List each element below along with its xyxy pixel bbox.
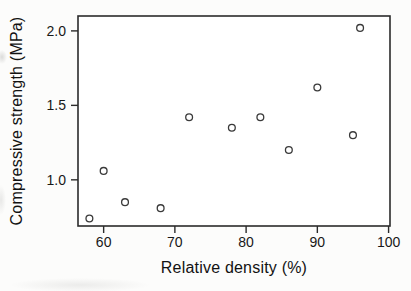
y-tick-label: 2.0 — [47, 23, 67, 39]
x-tick-label: 80 — [238, 234, 254, 250]
x-tick-label: 70 — [167, 234, 183, 250]
x-tick-label: 90 — [310, 234, 326, 250]
chart-canvas: 607080901001.01.52.0 — [0, 0, 411, 291]
scatter-figure: 607080901001.01.52.0 Relative density (%… — [0, 0, 411, 291]
plot-box — [78, 16, 390, 226]
y-tick-label: 1.0 — [47, 172, 67, 188]
x-axis-title: Relative density (%) — [161, 259, 307, 277]
y-axis-title: Compressive strength (MPa) — [8, 17, 26, 226]
x-tick-label: 60 — [96, 234, 112, 250]
x-tick-label: 100 — [377, 234, 401, 250]
y-tick-label: 1.5 — [47, 97, 67, 113]
